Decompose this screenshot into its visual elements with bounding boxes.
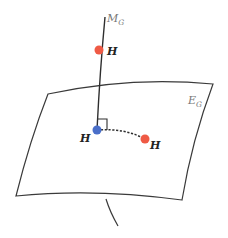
manifold-projection-diagram: MG EG H H H [0,0,228,238]
point-foot-label: H [79,132,91,145]
surface-sheet [16,82,213,200]
point-foot-marker [93,126,102,135]
manifold-label: MG [106,12,124,27]
point-top-marker [95,46,104,55]
point-top-label: H [106,45,118,58]
point-side-marker [141,135,150,144]
point-side-label: H [149,139,161,152]
manifold-curve-lower [106,199,118,226]
